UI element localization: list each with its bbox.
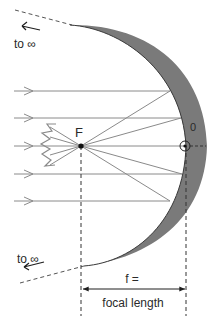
vertex-point [183,144,186,147]
to-infinity-top-label: to ∞ [14,37,36,51]
bottom-dashed-extension [20,266,84,283]
f-equals-label: f = [125,272,139,286]
arrow-top-left-icon [22,22,40,30]
focal-point-F [78,143,83,148]
focal-point-label: F [75,125,83,140]
zigzag-source-icon [41,124,56,166]
top-dashed-extension [15,10,72,25]
concave-mirror-diagram: F 0 to ∞ to ∞ f = focal length [0,0,212,326]
focal-length-label: focal length [102,296,163,310]
vertex-label: 0 [190,121,196,133]
parallel-incoming-rays [14,87,185,205]
